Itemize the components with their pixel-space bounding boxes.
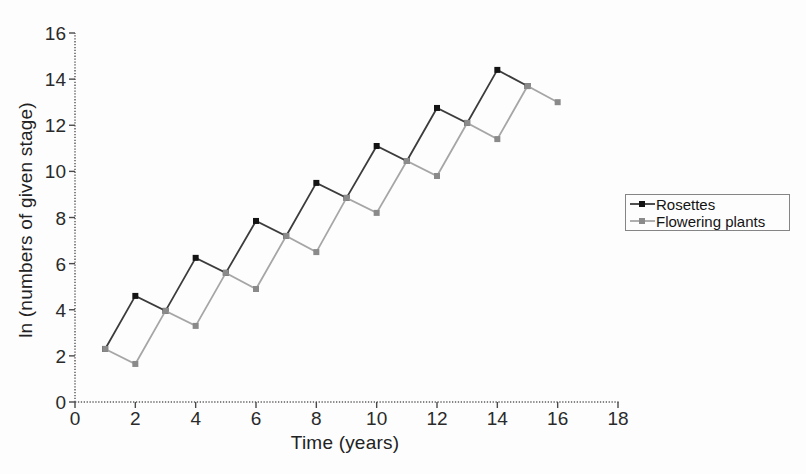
x-axis-label: Time (years) xyxy=(291,432,399,454)
marker-flowering-plants xyxy=(555,99,561,105)
marker-flowering-plants xyxy=(102,346,108,352)
y-axis-label: ln (numbers of given stage) xyxy=(15,102,37,338)
marker-flowering-plants xyxy=(132,361,138,367)
marker-rosettes xyxy=(132,293,138,299)
chart-canvas: 0246810121416180246810121416 xyxy=(0,0,806,474)
marker-rosettes xyxy=(253,218,259,224)
y-tick-label: 6 xyxy=(55,254,66,275)
x-tick-label: 10 xyxy=(366,408,387,429)
y-tick-label: 14 xyxy=(45,69,67,90)
series-line-rosettes xyxy=(105,70,527,349)
y-tick-label: 2 xyxy=(55,346,66,367)
legend-label-rosettes: Rosettes xyxy=(656,196,715,213)
marker-rosettes xyxy=(313,180,319,186)
marker-flowering-plants xyxy=(223,270,229,276)
x-tick-label: 18 xyxy=(607,408,628,429)
marker-flowering-plants xyxy=(494,136,500,142)
marker-rosettes xyxy=(434,105,440,111)
y-tick-label: 16 xyxy=(45,23,66,44)
marker-flowering-plants xyxy=(283,233,289,239)
legend-entry-rosettes: Rosettes xyxy=(629,196,789,213)
marker-rosettes xyxy=(374,143,380,149)
marker-rosettes xyxy=(494,67,500,73)
x-tick-label: 0 xyxy=(70,408,81,429)
x-tick-label: 16 xyxy=(547,408,568,429)
x-tick-label: 4 xyxy=(190,408,201,429)
legend-label-flowering-plants: Flowering plants xyxy=(656,213,765,230)
x-tick-label: 12 xyxy=(426,408,447,429)
flowering-plants-line-marker-icon xyxy=(629,216,656,226)
series-line-flowering-plants xyxy=(105,86,558,364)
x-tick-label: 2 xyxy=(130,408,141,429)
y-tick-label: 0 xyxy=(55,392,66,413)
marker-flowering-plants xyxy=(253,286,259,292)
marker-flowering-plants xyxy=(313,249,319,255)
marker-rosettes xyxy=(193,255,199,261)
marker-flowering-plants xyxy=(374,210,380,216)
y-tick-label: 8 xyxy=(55,208,66,229)
rosettes-line-marker-icon xyxy=(629,199,656,209)
x-tick-label: 14 xyxy=(487,408,509,429)
x-tick-label: 6 xyxy=(251,408,262,429)
teasel-population-chart: 0246810121416180246810121416 ln (numbers… xyxy=(0,0,806,474)
marker-flowering-plants xyxy=(434,173,440,179)
marker-flowering-plants xyxy=(163,308,169,314)
y-tick-label: 12 xyxy=(45,115,66,136)
marker-flowering-plants xyxy=(404,158,410,164)
legend-entry-flowering-plants: Flowering plants xyxy=(629,213,789,230)
x-tick-label: 8 xyxy=(311,408,322,429)
y-tick-label: 4 xyxy=(55,300,66,321)
marker-flowering-plants xyxy=(193,323,199,329)
legend: Rosettes Flowering plants xyxy=(625,194,790,231)
y-tick-label: 10 xyxy=(45,161,66,182)
marker-flowering-plants xyxy=(344,195,350,201)
marker-flowering-plants xyxy=(525,83,531,89)
marker-flowering-plants xyxy=(464,120,470,126)
